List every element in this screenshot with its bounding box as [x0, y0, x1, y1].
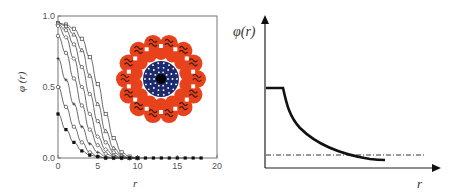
y-axis-label: φ(r) [233, 24, 256, 40]
right-chart: φ(r) r [233, 15, 441, 191]
x-tick-label: 15 [172, 161, 182, 171]
micelle-inset [116, 35, 206, 123]
y-axis-arrow-icon [261, 15, 269, 24]
x-tick-label: 0 [55, 161, 60, 171]
y-tick-label: 0.5 [42, 82, 55, 92]
x-tick-label: 5 [95, 161, 100, 171]
profile-curve [266, 88, 385, 160]
y-tick-label: 1.0 [42, 11, 55, 21]
x-axis-label: r [133, 177, 138, 189]
left-chart: 051015200.00.51.0 r φ (r) [15, 11, 222, 189]
y-tick-label: 0.0 [42, 153, 55, 163]
x-tick-label: 20 [212, 161, 222, 171]
y-axis-label: φ (r) [15, 71, 28, 92]
x-tick-label: 10 [132, 161, 142, 171]
figure: 051015200.00.51.0 r φ (r) φ(r) r [0, 0, 459, 194]
x-axis-arrow-icon [432, 164, 441, 172]
x-axis-label: r [417, 176, 423, 191]
